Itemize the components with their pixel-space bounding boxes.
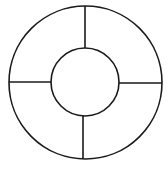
segmented-ring-diagram [0,0,168,170]
inner-circle [51,48,119,116]
